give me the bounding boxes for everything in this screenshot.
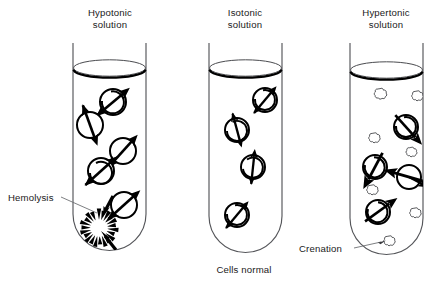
crenated-cell (412, 91, 423, 101)
tube-group-isotonic: Isotonic solution (209, 7, 282, 253)
crenated-cell (369, 133, 380, 143)
tube-label-isotonic-line1: Isotonic (228, 7, 262, 18)
tube-label-hypertonic-line2: solution (369, 19, 403, 30)
tube-label-hypotonic-line2: solution (93, 19, 127, 30)
crenated-cell (406, 147, 417, 157)
diagram-canvas: Hypotonic solution (0, 0, 441, 282)
tube-rim-hypotonic (74, 60, 146, 76)
hemolysis-label: Hemolysis (8, 192, 54, 203)
tube-group-hypertonic: Hypertonic solution (350, 7, 430, 255)
osmosis-diagram: Hypotonic solution (0, 0, 441, 282)
crenated-cell (410, 208, 421, 218)
tube-label-hypotonic-line1: Hypotonic (88, 7, 132, 18)
crenated-cell (367, 185, 378, 195)
tube-group-hypotonic: Hypotonic solution (73, 7, 146, 251)
cells-normal-caption: Cells normal (216, 264, 271, 275)
tube-rim-isotonic (210, 60, 282, 76)
tube-label-isotonic-line2: solution (228, 19, 262, 30)
tube-rim-hypertonic (351, 62, 423, 78)
crenated-cell (374, 88, 386, 99)
crenation-label: Crenation (299, 243, 342, 254)
tube-label-hypertonic-line1: Hypertonic (362, 7, 409, 18)
